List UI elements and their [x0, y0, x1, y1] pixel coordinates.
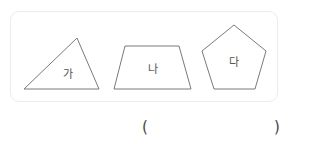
- shape-label-na: 나: [148, 60, 158, 76]
- triangle-shape-ga: [24, 38, 99, 89]
- shape-label-da: 다: [229, 53, 239, 69]
- answer-close-paren: ): [274, 118, 280, 136]
- shape-label-ga: 가: [63, 65, 73, 81]
- answer-blank[interactable]: [152, 118, 270, 136]
- answer-open-paren: (: [142, 118, 148, 136]
